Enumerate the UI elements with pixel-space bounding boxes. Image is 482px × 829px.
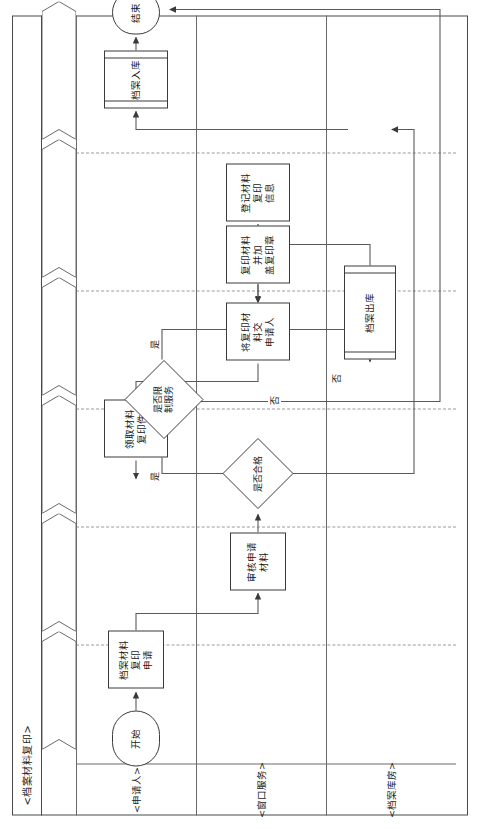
edge-label-checkout-no: 否 bbox=[330, 372, 343, 383]
node-checkout[interactable]: 档案出库 bbox=[344, 265, 396, 359]
edge-label-text: 是 bbox=[150, 339, 160, 348]
chevron-shape-icon bbox=[42, 631, 76, 749]
node-copystamp-label: 复印材料并加 盖复印章 bbox=[240, 226, 276, 282]
rotated-diagram-wrapper: <档案材料复印> <材料复印申请> <审核申请> bbox=[0, 0, 482, 829]
chevron-shape-icon bbox=[42, 277, 76, 395]
edge-label-restrict-yes-down: 是 bbox=[148, 470, 161, 481]
node-checkin-label: 档案入库 bbox=[130, 55, 142, 103]
lane-label-cell-1: <窗口服务> bbox=[196, 763, 326, 815]
flowchart-canvas: <档案材料复印> <材料复印申请> <审核申请> bbox=[0, 0, 482, 829]
edge-label-qualified-no: 否 bbox=[268, 394, 281, 405]
node-qualified[interactable]: 是否合格 bbox=[222, 437, 294, 509]
node-register-label: 登记材料复印 信息 bbox=[240, 164, 276, 220]
node-register[interactable]: 登记材料复印 信息 bbox=[226, 163, 290, 221]
node-apply[interactable]: 档案材料复印 申请 bbox=[108, 630, 164, 688]
lane-separator-0 bbox=[76, 15, 77, 815]
node-restrict[interactable]: 是否限 制服务 bbox=[124, 359, 204, 439]
lane-label-2: <档案库房> bbox=[384, 762, 398, 818]
phase-divider-3 bbox=[76, 290, 456, 291]
chevron-shape-icon bbox=[42, 513, 76, 631]
chevron-shape-icon bbox=[42, 139, 76, 277]
node-end-label: 结束 bbox=[130, 0, 142, 26]
phase-header-2: <限制服务检查> bbox=[42, 395, 76, 513]
phase-header-strip: <材料复印申请> <审核申请> <限制服务检查> bbox=[42, 15, 76, 815]
phase-header-1: <审核申请> bbox=[42, 513, 76, 631]
node-copystamp[interactable]: 复印材料并加 盖复印章 bbox=[226, 225, 290, 283]
lane-label-0: <申请人> bbox=[129, 767, 143, 813]
diagram-title: <档案材料复印> bbox=[19, 724, 34, 805]
lane-separator-2 bbox=[326, 15, 327, 815]
flowchart-screenshot: <档案材料复印> <材料复印申请> <审核申请> bbox=[0, 0, 482, 829]
lane-label-cell-2: <档案库房> bbox=[326, 763, 456, 815]
lane-label-1: <窗口服务> bbox=[254, 762, 268, 818]
node-restrict-label: 是否限 制服务 bbox=[124, 359, 204, 439]
chevron-shape-icon bbox=[42, 395, 76, 513]
chevron-shape-icon bbox=[42, 1, 76, 139]
edge-label-text: 否 bbox=[332, 373, 342, 382]
node-handover[interactable]: 将复印材料交 申请人 bbox=[226, 302, 290, 360]
node-handover-label: 将复印材料交 申请人 bbox=[240, 303, 276, 359]
phase-header-0: <材料复印申请> bbox=[42, 631, 76, 749]
phase-divider-4 bbox=[76, 152, 456, 153]
node-apply-label: 档案材料复印 申请 bbox=[118, 631, 154, 687]
phase-header-4: <材料复印> bbox=[42, 139, 76, 277]
diagram-title-band: <档案材料复印> bbox=[12, 15, 42, 815]
node-start[interactable]: 开始 bbox=[112, 710, 160, 766]
node-review-label: 审核申请材料 bbox=[246, 533, 270, 589]
edge-label-text: 是 bbox=[150, 471, 160, 480]
edge-label-text: 否 bbox=[270, 395, 280, 404]
node-checkout-label: 档案出库 bbox=[364, 288, 376, 336]
phase-header-3: <档案出库> bbox=[42, 277, 76, 395]
phase-divider-1 bbox=[76, 526, 456, 527]
node-checkin[interactable]: 档案入库 bbox=[104, 50, 168, 108]
diagram-frame bbox=[12, 15, 468, 815]
node-review[interactable]: 审核申请材料 bbox=[230, 532, 286, 590]
edge-label-restrict-yes-right: 是 bbox=[148, 338, 161, 349]
node-start-label: 开始 bbox=[130, 724, 142, 752]
lane-label-cell-0: <申请人> bbox=[76, 763, 196, 815]
phase-header-5: <档案入库> bbox=[42, 1, 76, 139]
node-qualified-label: 是否合格 bbox=[222, 437, 294, 509]
